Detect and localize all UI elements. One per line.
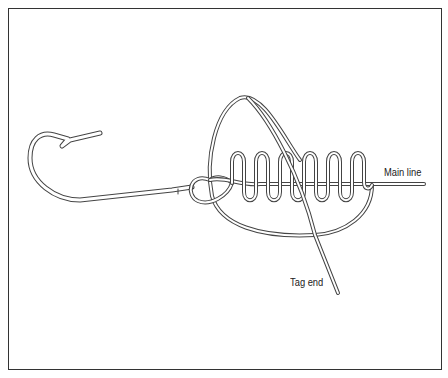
tag-end-label: Tag end [290,276,323,288]
knot-diagram [0,0,448,378]
hook-icon [30,133,192,200]
main-line-label: Main line [384,166,421,178]
knot-lines [191,97,424,293]
